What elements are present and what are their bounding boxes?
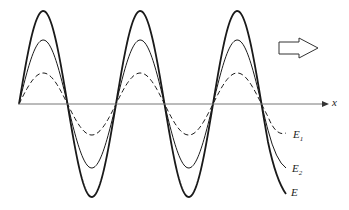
x-axis-label: x xyxy=(332,96,337,108)
wave-diagram xyxy=(0,0,349,210)
wave-label-e: E xyxy=(291,186,298,198)
x-axis-arrowhead-icon xyxy=(322,101,329,107)
wave-label-e1: E1 xyxy=(293,128,303,143)
wave-label-e2: E2 xyxy=(292,162,302,177)
propagation-arrow-icon xyxy=(279,38,318,58)
